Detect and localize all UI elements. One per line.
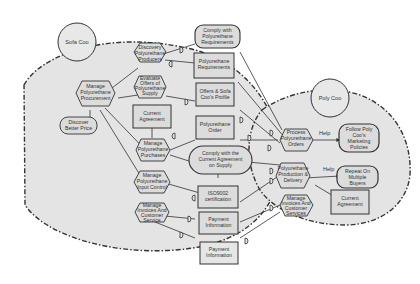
- resource-current-agreement-right[interactable]: Current Agreement: [331, 190, 369, 214]
- resource-offers-profile[interactable]: Offers & Sofa Coo's Profile: [196, 83, 234, 106]
- svg-text:Requirements: Requirements: [201, 39, 234, 45]
- svg-text:Agreement: Agreement: [337, 201, 363, 207]
- actor-label: Poly Coo: [319, 95, 342, 101]
- task-manage-invoices-right[interactable]: Manage Invoices And Customer Services: [280, 195, 313, 216]
- svg-text:Producers: Producers: [138, 56, 162, 62]
- svg-text:Service: Service: [143, 217, 160, 223]
- svg-text:Buyers: Buyers: [349, 180, 366, 186]
- actor-label: Sofa Coo: [65, 39, 88, 45]
- task-discovery-producers[interactable]: Discovery Polyurethane Producers: [134, 43, 166, 62]
- contribution-label-help: Help: [323, 166, 334, 172]
- softgoal-repeat-multiple-buyers[interactable]: Repeat On Multiple Buyers: [337, 166, 378, 188]
- task-evaluate-offers[interactable]: Evaluate Offers of Polyurethane Supply: [134, 75, 166, 98]
- softgoal-follow-marketing-policies[interactable]: Follow Poly Coo's Marketing Policies: [339, 124, 379, 152]
- svg-text:Coo's Profile: Coo's Profile: [200, 94, 229, 100]
- svg-text:Orders: Orders: [288, 141, 304, 147]
- actor-poly-coo[interactable]: Poly Coo: [311, 79, 349, 117]
- task-manage-input-control[interactable]: Manage Polyurethane Input Control: [134, 171, 170, 193]
- task-manage-purchases[interactable]: Manage Polyurethane Purchases: [136, 139, 170, 161]
- svg-text:Procurement: Procurement: [81, 95, 111, 101]
- softgoal-comply-requirements[interactable]: Comply with Polyurethane Requirements: [195, 25, 240, 48]
- svg-text:certification: certification: [205, 196, 231, 202]
- resource-iso9002[interactable]: ISO9002 certification: [198, 186, 238, 208]
- istar-diagram: Sofa Coo Poly Coo Discovery Polyurethane…: [0, 0, 420, 284]
- task-process-orders[interactable]: Process Polyurethane Orders: [280, 129, 313, 151]
- svg-text:Delivery: Delivery: [284, 177, 303, 183]
- svg-text:Better Price: Better Price: [65, 125, 92, 131]
- svg-text:Information: Information: [206, 222, 232, 228]
- svg-text:Requirements: Requirements: [198, 64, 231, 70]
- svg-text:Input Control: Input Control: [137, 184, 167, 190]
- contribution-label-help: Help: [319, 130, 330, 136]
- resource-current-agreement-left[interactable]: Current Agreement: [133, 105, 171, 128]
- resource-payment-information-2[interactable]: Payment Information: [200, 242, 238, 264]
- resource-polyurethane-order[interactable]: Polyurethane Order: [196, 116, 234, 139]
- goal-comply-current-agreement[interactable]: Comply with the Current Agreement on Sup…: [189, 146, 252, 174]
- svg-text:on Supply: on Supply: [209, 162, 232, 168]
- resource-polyurethane-requirements[interactable]: Polyurethane Requirements: [194, 53, 234, 78]
- svg-text:Supply: Supply: [142, 90, 158, 96]
- task-production-delivery[interactable]: Polyurethane Production & Delivery: [276, 163, 310, 188]
- task-manage-procurement[interactable]: Manage Polyurethane Procurement: [76, 81, 115, 106]
- softgoal-discover-better-price[interactable]: Discover Better Price: [60, 117, 97, 134]
- svg-text:Purchases: Purchases: [141, 152, 166, 158]
- resource-payment-information-1[interactable]: Payment Information: [199, 212, 238, 234]
- actor-sofa-coo[interactable]: Sofa Coo: [58, 23, 96, 61]
- svg-text:Order: Order: [208, 127, 222, 133]
- task-manage-invoices-left[interactable]: Manage Invoices And Customer Service: [135, 202, 169, 223]
- svg-text:Information: Information: [206, 252, 232, 258]
- svg-text:Policies: Policies: [350, 144, 368, 150]
- svg-text:Agreement: Agreement: [139, 116, 165, 122]
- svg-text:Services: Services: [286, 210, 306, 216]
